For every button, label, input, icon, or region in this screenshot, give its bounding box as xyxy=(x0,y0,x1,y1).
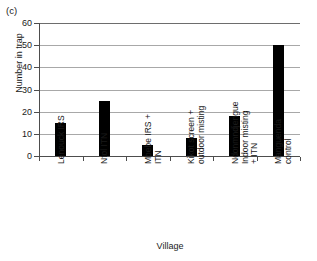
x-tick-mark-3 xyxy=(170,157,171,161)
y-tick-mark-40 xyxy=(34,67,39,68)
x-tick-mark-end xyxy=(300,157,301,161)
y-tick-label-30: 30 xyxy=(0,86,32,95)
x-tick-label-2: Mbebe IRS + ITN xyxy=(144,44,163,164)
y-tick-label-60: 60 xyxy=(0,19,32,28)
x-tick-label-3: Kikot screen + outdoor misting xyxy=(187,44,206,164)
plot-area xyxy=(39,23,300,156)
x-tick-mark-5 xyxy=(257,157,258,161)
y-tick-label-10: 10 xyxy=(0,130,32,139)
x-tick-mark-1 xyxy=(83,157,84,161)
y-tick-label-40: 40 xyxy=(0,63,32,72)
gridline-40 xyxy=(39,67,300,68)
y-tick-mark-30 xyxy=(34,90,39,91)
y-tick-label-0: 0 xyxy=(0,152,32,161)
x-tick-label-0: Lenouck IRS xyxy=(57,44,67,164)
y-axis-spine xyxy=(39,23,40,157)
y-tick-mark-20 xyxy=(34,112,39,113)
x-axis-title: Village xyxy=(39,241,301,251)
y-tick-mark-50 xyxy=(34,45,39,46)
figure-panel-c: (c) Number in trap Village 0102030405060… xyxy=(0,0,317,261)
x-tick-mark-4 xyxy=(213,157,214,161)
x-tick-label-5: Manguenda control xyxy=(274,44,293,164)
gridline-30 xyxy=(39,90,300,91)
y-tick-label-20: 20 xyxy=(0,108,32,117)
gridline-20 xyxy=(39,112,300,113)
gridline-10 xyxy=(39,134,300,135)
y-tick-mark-10 xyxy=(34,134,39,135)
x-tick-label-1: Ntol ITN xyxy=(100,44,110,164)
y-tick-label-50: 50 xyxy=(0,41,32,50)
x-tick-mark-2 xyxy=(126,157,127,161)
y-tick-mark-60 xyxy=(34,23,39,24)
x-tick-label-4: Ndonmndjengue Indoor misting + ITN xyxy=(231,44,260,164)
gridline-60 xyxy=(39,23,300,24)
x-tick-mark-0 xyxy=(39,157,40,161)
gridline-50 xyxy=(39,45,300,46)
